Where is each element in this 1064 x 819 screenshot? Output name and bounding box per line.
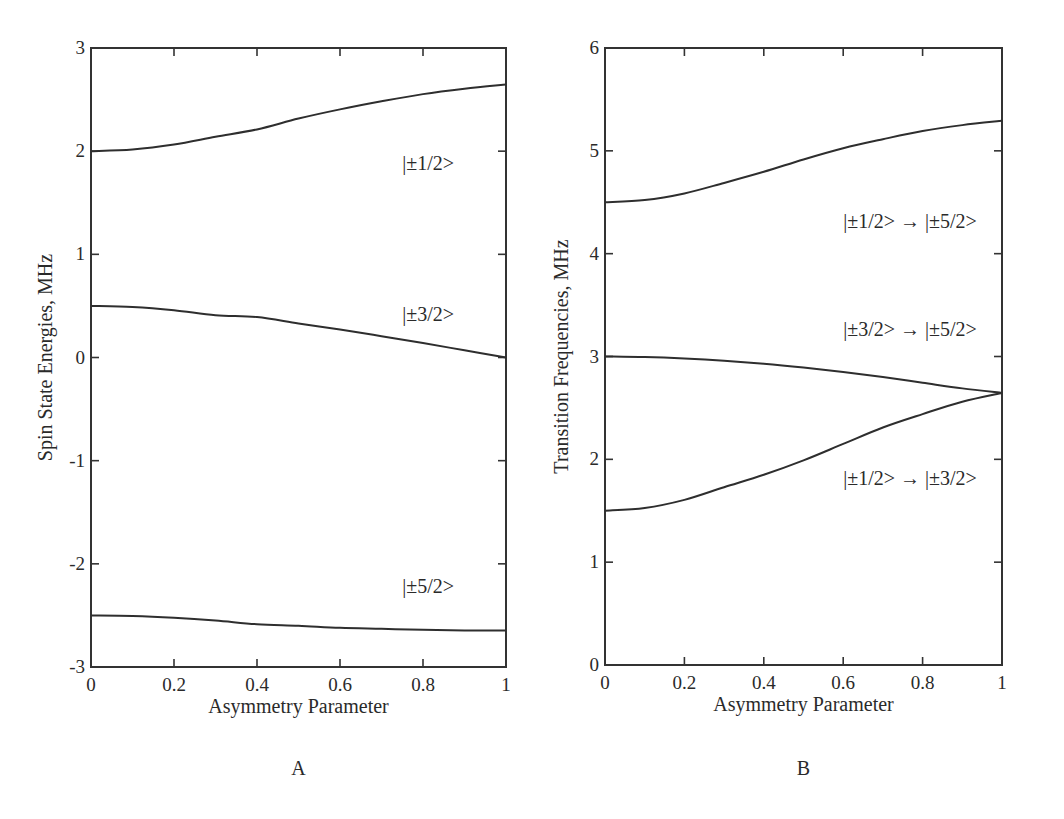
x-tick-label: 0.6 [328,674,352,695]
y-tick-label: 3 [590,346,600,367]
x-tick-label: 0.6 [831,672,855,693]
series-label: |±1/2> → |±3/2> [843,467,977,490]
y-tick-label: 0 [590,654,600,675]
y-tick-label: 5 [590,140,600,161]
data-series-line [605,393,1002,511]
data-series-line [91,85,506,152]
data-series-line [605,357,1002,393]
panel-a-energies-chart: 00.20.40.60.81-3-2-10123|±1/2>|±3/2>|±5/… [34,37,511,779]
x-tick-label: 0.8 [911,672,935,693]
y-tick-label: 1 [590,551,600,572]
series-label: |±3/2> → |±5/2> [843,318,977,341]
series-label: |±1/2> [402,152,454,175]
series-label: |±1/2> → |±5/2> [843,210,977,233]
y-tick-label: -2 [69,553,85,574]
series-label: |±3/2> [402,303,454,326]
panel-label: B [797,757,810,779]
panel-label: A [291,757,306,779]
x-axis-label: Asymmetry Parameter [713,693,894,716]
x-tick-label: 0.2 [673,672,697,693]
figure: 00.20.40.60.81-3-2-10123|±1/2>|±3/2>|±5/… [0,0,1064,819]
y-tick-label: 4 [590,243,600,264]
plot-frame [605,48,1002,665]
y-tick-label: 6 [590,37,600,58]
x-tick-label: 0.4 [245,674,269,695]
x-tick-label: 0 [600,672,610,693]
series-label: |±5/2> [402,575,454,598]
x-tick-label: 0.4 [752,672,776,693]
panel-b-transitions-chart: 00.20.40.60.810123456|±1/2> → |±5/2>|±3/… [550,37,1007,779]
x-tick-label: 0 [86,674,96,695]
y-tick-label: 2 [590,448,600,469]
data-series-line [605,121,1002,202]
y-tick-label: -1 [69,450,85,471]
y-tick-label: 1 [76,243,86,264]
y-tick-label: -3 [69,656,85,677]
y-tick-label: 3 [76,37,86,58]
y-tick-label: 2 [76,140,86,161]
x-tick-label: 1 [997,672,1007,693]
x-tick-label: 0.2 [162,674,186,695]
x-tick-label: 0.8 [411,674,435,695]
x-axis-label: Asymmetry Parameter [208,695,389,718]
y-tick-label: 0 [76,347,86,368]
y-axis-label: Spin State Energies, MHz [34,254,57,462]
x-tick-label: 1 [501,674,511,695]
y-axis-label: Transition Frequencies, MHz [550,239,573,473]
data-series-line [91,615,506,630]
